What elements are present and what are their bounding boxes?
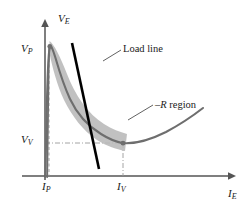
i-peak-tick-label: IP	[42, 181, 51, 194]
neg-r-band-shape	[50, 41, 128, 151]
figure-container: VE IE VP VV IP IV Load line –R region	[0, 0, 252, 205]
neg-r-leader	[128, 105, 153, 120]
load-line-annotation: Load line	[123, 44, 163, 55]
characteristic-curve-svg	[0, 0, 252, 205]
y-axis-arrow-icon	[41, 19, 49, 27]
leader-lines-group	[103, 50, 153, 120]
valley-point-marker	[121, 141, 126, 146]
peak-point-marker	[47, 44, 52, 49]
v-valley-tick-label: VV	[21, 134, 33, 147]
negative-resistance-annotation: –R region	[155, 100, 196, 111]
tunnel-diode-curve	[45, 46, 203, 177]
negative-resistance-band	[50, 41, 128, 151]
load-line-leader	[103, 50, 121, 61]
x-axis-arrow-icon	[228, 172, 236, 180]
characteristic-curve-group	[45, 44, 203, 177]
y-axis-label: VE	[58, 13, 70, 26]
v-peak-tick-label: VP	[21, 43, 33, 56]
x-axis-label: IE	[228, 188, 237, 201]
i-valley-tick-label: IV	[117, 181, 126, 194]
